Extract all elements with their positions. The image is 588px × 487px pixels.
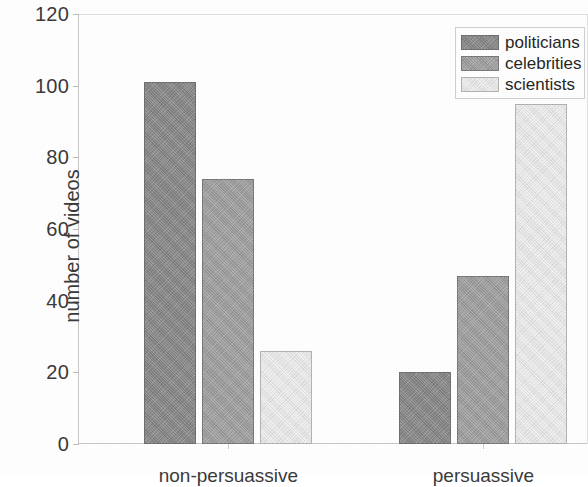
legend-item-celebrities: celebrities <box>461 53 579 73</box>
plot-top-border <box>78 14 588 15</box>
legend: politicianscelebritiesscientists <box>455 27 585 99</box>
x-axis-label-1: persuassive <box>433 465 534 487</box>
y-tick-label: 20 <box>46 361 69 384</box>
y-tick-mark <box>73 14 79 15</box>
legend-label: celebrities <box>505 55 582 72</box>
x-axis-label-0: non-persuassive <box>159 465 298 487</box>
dark-gray-swatch <box>461 35 499 50</box>
legend-label: politicians <box>505 34 580 51</box>
bar-politicians-non-persuassive <box>144 82 196 444</box>
y-tick-mark <box>73 86 79 87</box>
legend-item-politicians: politicians <box>461 32 579 52</box>
bar-politicians-persuassive <box>399 372 451 444</box>
bar-celebrities-non-persuassive <box>202 179 254 444</box>
y-tick-label: 120 <box>35 3 69 26</box>
legend-item-scientists: scientists <box>461 74 579 94</box>
bar-scientists-non-persuassive <box>260 351 312 444</box>
medium-gray-swatch <box>461 56 499 71</box>
y-tick-label: 100 <box>35 74 69 97</box>
y-tick-label: 0 <box>58 433 69 456</box>
y-tick-mark <box>73 444 79 445</box>
bar-scientists-persuassive <box>515 104 567 444</box>
bar-celebrities-persuassive <box>457 276 509 444</box>
y-tick-mark <box>73 157 79 158</box>
y-tick-mark <box>73 372 79 373</box>
light-gray-swatch <box>461 77 499 92</box>
y-axis-title: number of videos <box>61 169 84 322</box>
y-tick-label: 80 <box>46 146 69 169</box>
legend-label: scientists <box>505 76 575 93</box>
